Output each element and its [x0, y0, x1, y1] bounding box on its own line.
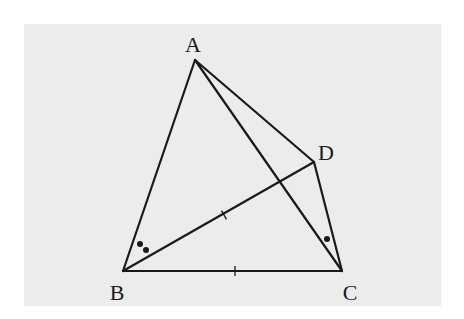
label-point-c: C: [343, 280, 358, 305]
angle-dot-abd-1: [137, 241, 143, 247]
diagram-background: [24, 24, 441, 306]
angle-dot-acd-1: [324, 236, 330, 242]
angle-dot-abd-2: [143, 247, 149, 253]
label-point-b: B: [110, 280, 125, 305]
label-point-a: A: [185, 32, 201, 57]
geometry-diagram: ABCD: [0, 0, 464, 319]
label-point-d: D: [318, 140, 334, 165]
